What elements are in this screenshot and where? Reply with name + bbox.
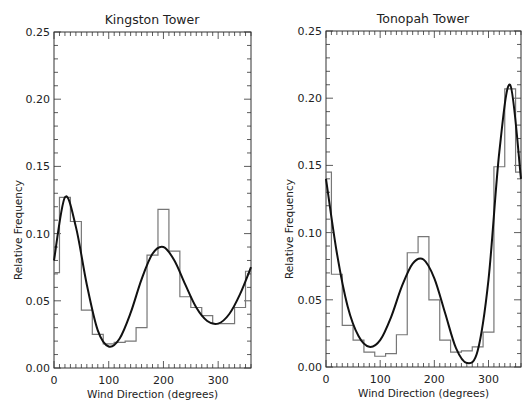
x-axis-label: Wind Direction (degrees) xyxy=(87,388,218,400)
y-tick-label: 0.25 xyxy=(26,26,51,39)
chart-title: Tonopah Tower xyxy=(376,11,470,26)
histogram-steps xyxy=(326,89,521,356)
y-tick-label: 0.15 xyxy=(298,159,323,172)
x-axis-label: Wind Direction (degrees) xyxy=(358,387,489,399)
chart-panel-2: 0.000.050.100.150.200.250100200300Tonopa… xyxy=(283,11,521,399)
y-axis-label: Relative Frequency xyxy=(12,180,24,280)
y-tick-label: 0.10 xyxy=(26,228,51,241)
y-tick-label: 0.00 xyxy=(26,362,51,375)
plot-frame xyxy=(54,32,251,368)
x-tick-label: 0 xyxy=(323,373,330,386)
x-tick-label: 200 xyxy=(153,374,174,387)
y-tick-label: 0.25 xyxy=(298,25,323,38)
y-tick-label: 0.20 xyxy=(298,92,323,105)
fitted-curve xyxy=(326,84,521,363)
y-tick-label: 0.15 xyxy=(26,160,51,173)
y-tick-label: 0.05 xyxy=(298,294,323,307)
y-tick-label: 0.05 xyxy=(26,295,51,308)
x-tick-label: 100 xyxy=(98,374,119,387)
plot-frame xyxy=(326,31,521,367)
y-axis-label: Relative Frequency xyxy=(283,179,295,279)
x-tick-label: 100 xyxy=(370,373,391,386)
x-tick-label: 200 xyxy=(424,373,445,386)
x-tick-label: 0 xyxy=(51,374,58,387)
x-tick-label: 300 xyxy=(478,373,499,386)
y-tick-label: 0.20 xyxy=(26,93,51,106)
x-tick-label: 300 xyxy=(208,374,229,387)
chart-title: Kingston Tower xyxy=(105,12,201,27)
chart-panel-1: 0.000.050.100.150.200.250100200300Kingst… xyxy=(12,12,251,400)
y-tick-label: 0.10 xyxy=(298,227,323,240)
y-tick-label: 0.00 xyxy=(298,361,323,374)
wind-direction-charts: 0.000.050.100.150.200.250100200300Kingst… xyxy=(0,0,529,415)
